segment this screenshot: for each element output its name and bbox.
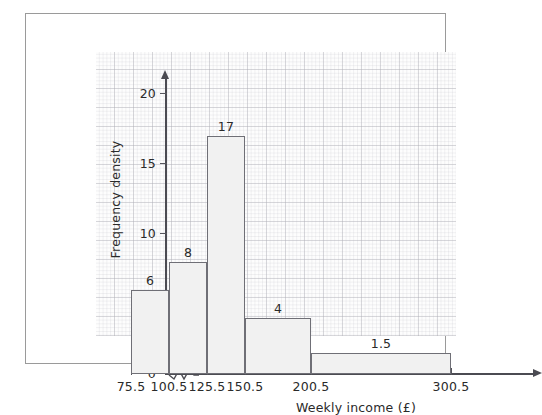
bar-label-1-5: 1.5 (361, 336, 401, 351)
y-tick-10 (160, 233, 167, 234)
plot-area: 0 5 10 15 20 75.5 100.5 125.5 150.5 200.… (96, 52, 456, 336)
x-tick-label-200-5: 200.5 (281, 379, 341, 394)
y-tick-20 (160, 93, 167, 94)
y-tick-label-10: 10 (126, 226, 156, 241)
bar-label-17: 17 (206, 119, 246, 134)
bar-8[interactable] (169, 262, 207, 374)
x-axis-title: Weekly income (£) (246, 400, 466, 415)
y-axis-title: Frequency density (108, 115, 123, 285)
bar-6[interactable] (131, 290, 169, 374)
x-tick-300-5 (451, 368, 452, 375)
bar-1-5[interactable] (311, 353, 451, 374)
bar-label-6: 6 (130, 273, 170, 288)
y-axis-arrow-icon (161, 70, 169, 79)
x-tick-label-300-5: 300.5 (421, 379, 481, 394)
y-tick-15 (160, 163, 167, 164)
x-axis-arrow-icon (533, 369, 542, 377)
figure-frame: 0 5 10 15 20 75.5 100.5 125.5 150.5 200.… (25, 13, 446, 364)
bar-label-8: 8 (168, 245, 208, 260)
x-tick-label-150-5: 150.5 (215, 379, 275, 394)
y-tick-label-20: 20 (126, 86, 156, 101)
bar-label-4: 4 (258, 301, 298, 316)
bar-17[interactable] (207, 136, 245, 374)
bar-4[interactable] (245, 318, 311, 374)
y-tick-label-15: 15 (126, 156, 156, 171)
